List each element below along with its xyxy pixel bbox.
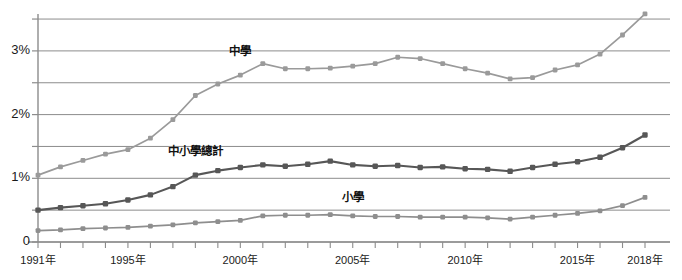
data-point [148, 192, 153, 197]
data-point [642, 132, 647, 137]
data-point [103, 152, 108, 157]
data-point [462, 166, 467, 171]
data-point [193, 220, 198, 225]
data-point [530, 75, 535, 80]
data-point [508, 217, 513, 222]
data-point [553, 68, 558, 73]
data-point [283, 66, 288, 71]
data-point [597, 155, 602, 160]
data-point [418, 56, 423, 61]
data-point [305, 213, 310, 218]
data-point [305, 66, 310, 71]
line-chart: 01%2%3%1991年1995年2000年2005年2010年2015年201… [0, 0, 682, 280]
data-point [440, 164, 445, 169]
data-point [395, 55, 400, 60]
data-point [305, 162, 310, 167]
data-point [81, 158, 86, 163]
data-point [620, 203, 625, 208]
data-point [328, 158, 333, 163]
data-point [575, 63, 580, 68]
data-point [440, 61, 445, 66]
data-point [530, 165, 535, 170]
data-point [260, 61, 265, 66]
data-point [620, 145, 625, 150]
data-point [485, 71, 490, 76]
data-point [260, 162, 265, 167]
data-point [58, 164, 63, 169]
y-axis-label: 2% [0, 106, 30, 121]
data-point [283, 213, 288, 218]
data-point [643, 195, 648, 200]
x-axis-label: 2015年 [560, 251, 595, 267]
x-axis-label: 1991年 [20, 251, 55, 267]
x-axis-label: 2018年 [627, 251, 662, 267]
data-point [58, 205, 63, 210]
data-point [575, 211, 580, 216]
data-point [395, 214, 400, 219]
data-point [215, 219, 220, 224]
data-point [643, 12, 648, 17]
data-point [126, 225, 131, 230]
data-point [103, 226, 108, 231]
data-point [103, 201, 108, 206]
data-point [350, 213, 355, 218]
series-label: 中小學總計 [168, 142, 223, 158]
data-point [552, 162, 557, 167]
data-point [170, 184, 175, 189]
data-point [350, 64, 355, 69]
series-label: 小學 [342, 188, 364, 204]
data-point [395, 163, 400, 168]
data-point [170, 117, 175, 122]
data-point [238, 73, 243, 78]
series-label: 中學 [229, 42, 251, 58]
data-point [373, 61, 378, 66]
data-point [485, 167, 490, 172]
data-point [81, 226, 86, 231]
data-point [148, 224, 153, 229]
data-point [58, 227, 63, 232]
data-point [508, 77, 513, 82]
data-point [373, 163, 378, 168]
data-point [193, 172, 198, 177]
data-point [620, 33, 625, 38]
data-point [238, 165, 243, 170]
data-point [417, 165, 422, 170]
data-point [125, 197, 130, 202]
data-point [170, 222, 175, 227]
data-point [463, 215, 468, 220]
data-point [260, 213, 265, 218]
data-point [553, 213, 558, 218]
data-point [507, 169, 512, 174]
y-axis-label: 3% [0, 42, 30, 57]
data-point [350, 162, 355, 167]
data-point [215, 168, 220, 173]
x-axis-label: 1995年 [110, 251, 145, 267]
data-point [328, 66, 333, 71]
data-point [440, 215, 445, 220]
x-axis-label: 2000年 [223, 251, 258, 267]
data-point [148, 136, 153, 141]
data-point [598, 52, 603, 57]
chart-plot-area [0, 0, 682, 280]
data-point [463, 66, 468, 71]
data-point [328, 212, 333, 217]
y-axis-label: 1% [0, 169, 30, 184]
data-point [530, 215, 535, 220]
data-point [418, 215, 423, 220]
x-axis-label: 2005年 [335, 251, 370, 267]
data-point [598, 208, 603, 213]
data-point [126, 147, 131, 152]
y-axis-label: 0 [0, 233, 30, 248]
data-point [36, 173, 41, 178]
x-axis-label: 2010年 [447, 251, 482, 267]
data-point [575, 159, 580, 164]
data-point [238, 218, 243, 223]
data-point [35, 207, 40, 212]
data-point [485, 215, 490, 220]
data-point [373, 214, 378, 219]
data-point [193, 93, 198, 98]
data-point [283, 163, 288, 168]
data-point [36, 228, 41, 233]
data-point [80, 203, 85, 208]
data-point [215, 82, 220, 87]
